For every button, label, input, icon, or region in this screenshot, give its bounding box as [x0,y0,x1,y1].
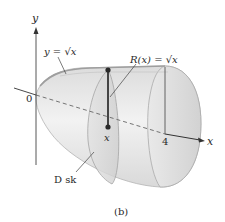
end-cap [148,66,201,187]
radius-top-point [105,67,110,72]
radius-label: R(x) = √x [129,54,178,65]
y-axis-label: y [31,12,39,25]
curve-label: y = √x [43,46,77,57]
x-tick-label-4: 4 [162,136,168,147]
origin-label: 0 [26,93,32,104]
solid-of-revolution-diagram: y 0 x 4 x y = √x R(x) = √x D sk (b) [0,0,225,222]
disk-label: D sk [54,174,77,185]
x-axis-negative [14,88,36,95]
x-point [105,124,110,129]
y-axis-arrow-icon [34,27,39,34]
figure-caption: (b) [114,206,128,217]
x-axis-label: x [207,135,214,148]
point-x-label: x [104,132,110,143]
x-axis-arrow-icon [198,138,205,143]
